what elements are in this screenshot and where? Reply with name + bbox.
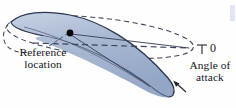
reference-location-line1: Reference — [19, 46, 66, 58]
zero-label: 0 — [210, 42, 216, 54]
center-marker-dot — [67, 30, 74, 37]
zero-tick-mark — [197, 45, 207, 54]
angle-of-attack-line2: attack — [184, 72, 236, 84]
reference-location-label: Reference location — [6, 47, 80, 70]
airfoil-angle-of-attack-figure: Reference location 0 Angle of attack — [0, 0, 236, 108]
reference-location-line2: location — [6, 59, 80, 71]
page-edge-artifact — [230, 5, 235, 21]
angle-of-attack-label: Angle of attack — [184, 60, 236, 83]
angle-of-attack-line1: Angle of — [190, 59, 231, 71]
